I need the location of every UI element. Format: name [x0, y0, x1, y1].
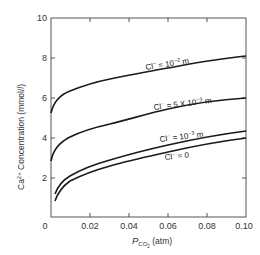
y-tick-labels: 10 8 6 4 2	[37, 13, 47, 183]
y-ticks	[51, 58, 246, 178]
curve-cl-5e-3	[51, 98, 246, 161]
curve-cl-1e-3	[55, 131, 246, 194]
y-tick-10: 10	[37, 13, 47, 23]
x-ticks	[90, 18, 207, 217]
chart: 10 8 6 4 2 0 0.02 0.04 0.06 0.08 0.10 PC…	[0, 0, 260, 255]
plot-frame	[51, 18, 246, 217]
x-tick-0: 0	[42, 221, 47, 231]
y-tick-6: 6	[42, 93, 47, 103]
x-axis-title: PCO2 (atm)	[132, 235, 172, 249]
y-axis-title: Ca2+ Concentration (mmol/l)	[16, 84, 26, 190]
curves	[51, 56, 246, 201]
curve-label-cl-5e-3: Cl− = 5 X 10−3 m	[153, 95, 212, 112]
x-tick-010: 0.10	[235, 221, 253, 231]
x-tick-002: 0.02	[81, 221, 99, 231]
x-tick-008: 0.08	[198, 221, 216, 231]
x-tick-labels: 0 0.02 0.04 0.06 0.08 0.10	[42, 221, 252, 231]
x-tick-004: 0.04	[120, 221, 138, 231]
x-tick-006: 0.06	[159, 221, 177, 231]
y-tick-4: 4	[42, 133, 47, 143]
curve-label-cl-1e-2: Cl− = 10−2 m	[145, 55, 190, 72]
y-tick-8: 8	[42, 53, 47, 63]
y-tick-2: 2	[42, 173, 47, 183]
